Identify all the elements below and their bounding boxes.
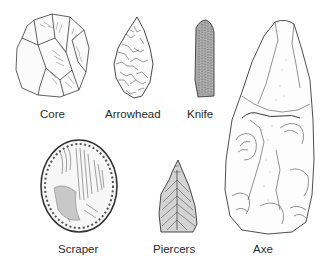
scraper-icon: [20, 130, 140, 240]
tool-label-knife: Knife: [187, 108, 213, 120]
tool-piercers: Piercers: [145, 130, 210, 267]
tool-core: Core: [0, 0, 100, 125]
tool-label-scraper: Scraper: [58, 243, 98, 255]
core-stone-icon: [0, 0, 100, 105]
tool-knife: Knife: [180, 0, 225, 125]
arrowhead-icon: [100, 0, 170, 105]
tool-label-core: Core: [40, 108, 65, 120]
tool-label-piercers: Piercers: [153, 243, 195, 255]
tool-arrowhead: Arrowhead: [100, 0, 170, 125]
tool-axe: Axe: [220, 0, 323, 267]
tool-scraper: Scraper: [20, 130, 140, 267]
tool-label-arrowhead: Arrowhead: [105, 108, 161, 120]
piercer-icon: [145, 130, 210, 240]
knife-blade-icon: [180, 0, 225, 105]
tool-label-axe: Axe: [253, 243, 273, 255]
hand-axe-icon: [220, 0, 323, 240]
